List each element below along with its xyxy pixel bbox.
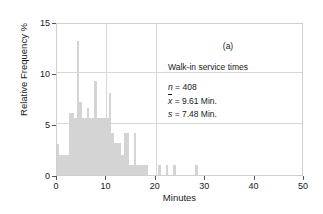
y-tick: [52, 74, 56, 75]
histogram-bar: [146, 165, 148, 175]
x-tick-label: 10: [100, 181, 110, 191]
stat-sd-value: 7.48 Min.: [182, 109, 217, 119]
x-tick-label: 40: [249, 181, 259, 191]
stat-sd: s = 7.48 Min.: [168, 108, 288, 121]
x-tick-label: 50: [298, 181, 308, 191]
x-tick-label: 0: [53, 181, 58, 191]
x-axis-label: Minutes: [56, 192, 303, 203]
histogram-bar: [166, 165, 168, 175]
histogram-bar: [195, 165, 197, 175]
panel-tag: (a): [168, 40, 288, 53]
x-tick: [105, 176, 106, 180]
y-axis-label: Relative Frequency %: [18, 0, 29, 145]
y-tick-label: 10: [40, 69, 50, 79]
stat-n-equals: =: [175, 82, 180, 92]
x-tick-label: 30: [199, 181, 209, 191]
x-tick: [204, 176, 205, 180]
histogram-bar: [158, 165, 160, 175]
stat-sd-equals: =: [175, 109, 180, 119]
histogram-figure: 051015 01020304050 Minutes Relative Freq…: [0, 0, 323, 214]
y-tick: [52, 125, 56, 126]
x-tick: [56, 176, 57, 180]
stat-mean-symbol: x: [168, 95, 172, 108]
stat-sd-symbol: s: [168, 109, 172, 119]
x-tick: [254, 176, 255, 180]
x-tick: [155, 176, 156, 180]
annotation-box: (a) Walk-in service times n = 408 x = 9.…: [168, 40, 288, 121]
stat-n-symbol: n: [168, 82, 173, 92]
y-tick-label: 0: [45, 171, 50, 181]
x-tick-label: 20: [150, 181, 160, 191]
histogram-bar: [173, 165, 175, 175]
annotation-caption: Walk-in service times: [168, 61, 288, 74]
stat-mean: x = 9.61 Min.: [168, 95, 288, 108]
y-tick-label: 5: [45, 120, 50, 130]
stat-n-value: 408: [182, 82, 196, 92]
stat-n: n = 408: [168, 81, 288, 94]
stat-mean-equals: =: [175, 96, 180, 106]
stat-mean-value: 9.61 Min.: [182, 96, 217, 106]
y-tick: [52, 23, 56, 24]
x-tick: [303, 176, 304, 180]
y-tick-label: 15: [40, 18, 50, 28]
